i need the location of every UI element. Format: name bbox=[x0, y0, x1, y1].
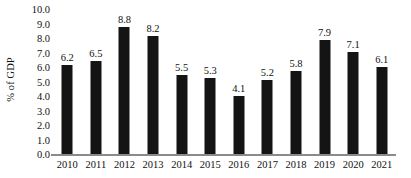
bar-group: 7.9 bbox=[310, 10, 339, 155]
bar-value-label: 8.2 bbox=[146, 23, 159, 34]
bar-chart-figure: % of GDP 10.09.08.07.06.05.04.03.02.01.0… bbox=[0, 0, 411, 178]
x-axis-tick-label: 2019 bbox=[314, 158, 335, 171]
x-axis-tick-label: 2020 bbox=[343, 158, 364, 171]
bar[interactable] bbox=[90, 61, 101, 155]
x-axis-tick-label: 2013 bbox=[143, 158, 164, 171]
bar[interactable] bbox=[62, 65, 73, 155]
bar[interactable] bbox=[319, 40, 330, 155]
y-axis-title-label: % of GDP bbox=[5, 57, 16, 102]
y-axis-tick-label: 4.0 bbox=[18, 92, 50, 102]
bar[interactable] bbox=[290, 71, 301, 155]
bar-value-label: 6.5 bbox=[89, 48, 102, 59]
bar-value-label: 4.1 bbox=[232, 83, 245, 94]
bar-value-label: 5.3 bbox=[204, 65, 217, 76]
y-axis-title: % of GDP bbox=[0, 0, 20, 158]
bar-value-label: 7.1 bbox=[347, 39, 360, 50]
bar-group: 6.5 bbox=[82, 10, 111, 155]
y-axis-tick-label: 6.0 bbox=[18, 63, 50, 73]
bar-value-label: 5.2 bbox=[261, 67, 274, 78]
bar-group: 5.2 bbox=[253, 10, 282, 155]
x-axis-tick-label: 2011 bbox=[86, 158, 107, 171]
bar-group: 6.2 bbox=[53, 10, 82, 155]
bar-group: 7.1 bbox=[339, 10, 368, 155]
bar[interactable] bbox=[233, 96, 244, 155]
bar-value-label: 7.9 bbox=[318, 27, 331, 38]
bar-group: 6.1 bbox=[367, 10, 396, 155]
y-axis-tick-label: 0.0 bbox=[18, 150, 50, 160]
x-axis-tick-label: 2018 bbox=[285, 158, 306, 171]
x-axis-tick-label: 2017 bbox=[257, 158, 278, 171]
bar[interactable] bbox=[205, 78, 216, 155]
bar-group: 4.1 bbox=[225, 10, 254, 155]
bar-value-label: 5.5 bbox=[175, 62, 188, 73]
y-axis-tick-label: 10.0 bbox=[18, 5, 50, 15]
y-axis-tick-label: 2.0 bbox=[18, 121, 50, 131]
bar-group: 5.5 bbox=[167, 10, 196, 155]
bar[interactable] bbox=[262, 80, 273, 155]
bar-value-label: 8.8 bbox=[118, 14, 131, 25]
bar-value-label: 6.2 bbox=[61, 52, 74, 63]
bar[interactable] bbox=[176, 75, 187, 155]
y-axis-tick-label: 5.0 bbox=[18, 78, 50, 88]
bar-group: 8.2 bbox=[139, 10, 168, 155]
bar-group: 5.3 bbox=[196, 10, 225, 155]
bar-group: 8.8 bbox=[110, 10, 139, 155]
bar[interactable] bbox=[348, 52, 359, 155]
bar[interactable] bbox=[119, 27, 130, 155]
x-axis-tick-label: 2014 bbox=[171, 158, 192, 171]
plot-area: 6.26.58.88.25.55.34.15.25.87.97.16.1 bbox=[53, 10, 396, 155]
x-axis-tick-label: 2016 bbox=[228, 158, 249, 171]
y-axis-tick-label: 1.0 bbox=[18, 136, 50, 146]
bar[interactable] bbox=[148, 36, 159, 155]
x-axis-line bbox=[51, 154, 396, 156]
y-axis-tick-label: 9.0 bbox=[18, 20, 50, 30]
x-axis-tick-label: 2010 bbox=[57, 158, 78, 171]
x-axis-tick-label: 2012 bbox=[114, 158, 135, 171]
x-axis-tick-label: 2021 bbox=[371, 158, 392, 171]
bar[interactable] bbox=[376, 67, 387, 155]
y-axis-tick-label: 8.0 bbox=[18, 34, 50, 44]
y-axis-tick-label: 3.0 bbox=[18, 107, 50, 117]
bar-value-label: 6.1 bbox=[375, 54, 388, 65]
y-axis-tick-labels: 10.09.08.07.06.05.04.03.02.01.00.0 bbox=[18, 0, 50, 158]
y-axis-tick-label: 7.0 bbox=[18, 49, 50, 59]
x-axis-tick-labels: 2010201120122013201420152016201720182019… bbox=[53, 158, 396, 174]
x-axis-tick-label: 2015 bbox=[200, 158, 221, 171]
bar-value-label: 5.8 bbox=[289, 58, 302, 69]
bar-group: 5.8 bbox=[282, 10, 311, 155]
